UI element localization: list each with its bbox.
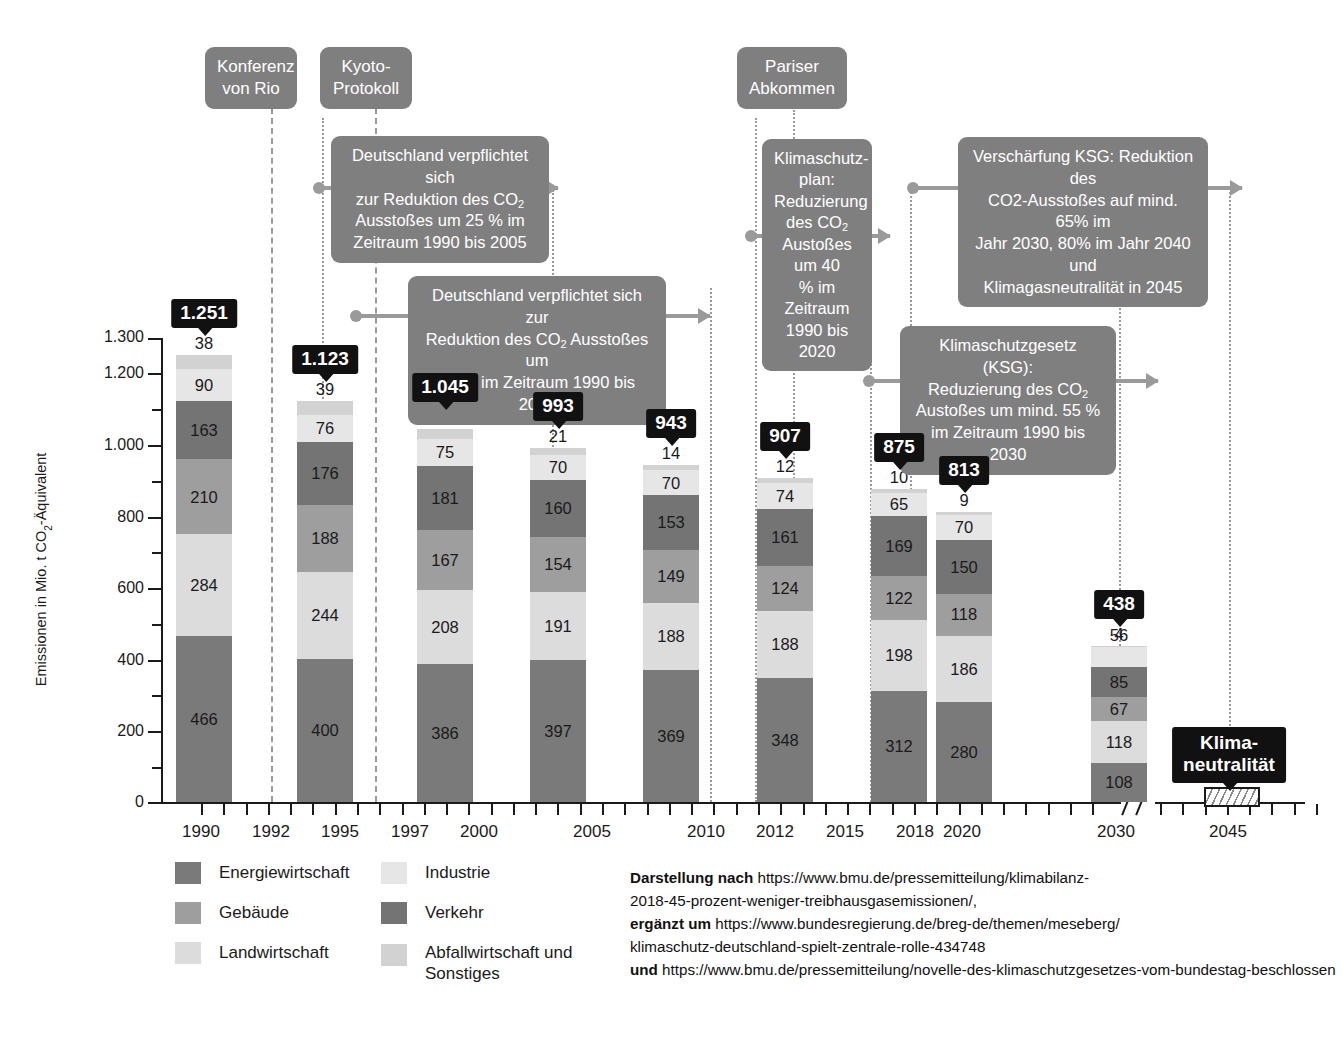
segment-value: 466 — [190, 711, 218, 728]
legend-item-gebaeude[interactable]: Gebäude — [175, 902, 289, 924]
callout-ksp-line3: Reduzierung — [774, 191, 860, 212]
y-tick-400 — [148, 660, 161, 662]
x-tick — [736, 804, 738, 815]
x-tick — [647, 804, 649, 815]
bar-segment-2018-abfallwirtschaft-und-sonstiges: 10 — [871, 489, 927, 493]
bar-segment-1990-geb-ude: 210 — [176, 459, 232, 534]
segment-value: 39 — [297, 381, 353, 398]
callout-verschaerfung-ksg[interactable]: Verschärfung KSG: Reduktion des CO2-Auss… — [958, 137, 1208, 307]
x-tick — [1092, 804, 1094, 815]
x-tick — [468, 804, 470, 815]
bar-segment-2000-geb-ude: 167 — [417, 530, 473, 590]
bar-2020[interactable]: 280186118150709 — [936, 512, 992, 802]
x-tick — [803, 804, 805, 815]
legend-item-industrie[interactable]: Industrie — [381, 862, 490, 884]
callout-kyoto-protokoll[interactable]: Kyoto- Protokoll — [320, 47, 412, 109]
x-label-2045: 2045 — [1209, 822, 1247, 842]
callout-konferenz-von-rio[interactable]: Konferenz von Rio — [205, 47, 297, 109]
segment-value: 75 — [436, 444, 454, 461]
bar-segment-2030-verkehr: 85 — [1091, 667, 1147, 697]
bar-segment-2010-industrie: 70 — [643, 470, 699, 495]
callout-reduktion-25[interactable]: Deutschland verpflichtet sich zur Redukt… — [331, 136, 549, 263]
callout-pariser-abkommen[interactable]: Pariser Abkommen — [737, 47, 847, 109]
legend-label-energiewirtschaft: Energiewirtschaft — [219, 862, 349, 883]
segment-value: 65 — [890, 496, 908, 513]
bar-segment-1990-energiewirtschaft: 466 — [176, 636, 232, 802]
total-badge-2010: 943 — [646, 409, 696, 438]
legend-item-abfallwirtschaft[interactable]: Abfallwirtschaft und Sonstiges — [381, 942, 585, 985]
neutrality-line1: Klima- — [1183, 732, 1275, 754]
bar-segment-2018-geb-ude: 122 — [871, 576, 927, 620]
bar-segment-2030-landwirtschaft: 118 — [1091, 721, 1147, 763]
segment-value: 76 — [316, 420, 334, 437]
legend-swatch-industrie — [381, 862, 407, 884]
bar-2005[interactable]: 3971911541607021 — [530, 448, 586, 802]
segment-value: 208 — [431, 619, 459, 636]
bar-2010[interactable]: 3691881491537014 — [643, 465, 699, 802]
bar-segment-2005-industrie: 70 — [530, 455, 586, 480]
event-line-2012 — [710, 288, 712, 802]
callout-ksg-line2: Reduzierung des CO2 — [912, 379, 1104, 401]
bar-segment-2030-abfallwirtschaft-und-sonstiges: 4 — [1091, 646, 1147, 647]
callout-vks-line2: CO2-Ausstoßes auf mind. 65% im — [970, 190, 1196, 234]
bar-segment-1990-landwirtschaft: 284 — [176, 534, 232, 635]
source-note: Darstellung nach https://www.bmu.de/pres… — [630, 866, 1330, 981]
segment-value: 108 — [1105, 774, 1133, 791]
bar-segment-2020-abfallwirtschaft-und-sonstiges: 9 — [936, 512, 992, 515]
segment-value: 21 — [530, 428, 586, 445]
bar-1995[interactable]: 4002441881767639 — [297, 401, 353, 802]
bar-segment-1995-abfallwirtschaft-und-sonstiges: 39 — [297, 401, 353, 415]
callout-vks-line1: Verschärfung KSG: Reduktion des — [970, 146, 1196, 190]
bar-2000[interactable]: 3862081671817528 — [417, 429, 473, 802]
y-tick-900 — [152, 481, 161, 483]
total-value: 1.123 — [301, 348, 349, 369]
bar-2018[interactable]: 3121981221696510 — [871, 489, 927, 802]
x-tick — [914, 804, 916, 815]
y-tick-1200 — [148, 373, 161, 375]
total-badge-2030: 438 — [1094, 590, 1144, 619]
callout-r21-line2: Reduktion des CO2 Ausstoßes um — [420, 329, 654, 373]
bar-segment-2010-abfallwirtschaft-und-sonstiges: 14 — [643, 465, 699, 470]
x-tick — [223, 804, 225, 815]
bar-segment-2010-energiewirtschaft: 369 — [643, 670, 699, 802]
bar-2015[interactable]: 3481881241617412 — [757, 478, 813, 802]
event-line-2045 — [1229, 188, 1231, 802]
legend-item-energiewirtschaft[interactable]: Energiewirtschaft — [175, 862, 349, 884]
segment-value: 150 — [950, 559, 978, 576]
y-label-1200: 1.200 — [104, 364, 144, 382]
y-tick-300 — [152, 695, 161, 697]
total-badge-2020: 813 — [939, 456, 989, 485]
y-tick-600 — [148, 588, 161, 590]
segment-value: 397 — [544, 723, 572, 740]
callout-ksp-line5: Austoßes um 40 — [774, 234, 860, 277]
bar-1990[interactable]: 4662842101639038 — [176, 355, 232, 802]
legend-item-verkehr[interactable]: Verkehr — [381, 902, 484, 924]
bar-segment-2020-landwirtschaft: 186 — [936, 636, 992, 702]
segment-value: 153 — [657, 514, 685, 531]
legend-swatch-verkehr — [381, 902, 407, 924]
bar-segment-2010-geb-ude: 149 — [643, 550, 699, 603]
x-tick — [959, 804, 961, 815]
callout-klimaschutzplan[interactable]: Klimaschutz- plan: Reduzierung des CO2 A… — [762, 139, 872, 371]
total-value: 1.251 — [180, 302, 228, 323]
x-tick — [691, 804, 693, 815]
x-tick — [312, 804, 314, 815]
x-tick — [1025, 804, 1027, 815]
y-tick-200 — [148, 731, 161, 733]
segment-value: 9 — [936, 492, 992, 509]
segment-value: 244 — [311, 607, 339, 624]
legend-item-landwirtschaft[interactable]: Landwirtschaft — [175, 942, 329, 964]
x-tick — [580, 804, 582, 815]
y-tick-1100 — [152, 409, 161, 411]
x-tick — [424, 804, 426, 815]
total-value: 907 — [769, 425, 801, 446]
y-axis-title-part2: -Äquivalent — [33, 453, 49, 526]
segment-value: 70 — [549, 459, 567, 476]
x-label-2015: 2015 — [826, 822, 864, 842]
callout-ksg[interactable]: Klimaschutzgesetz (KSG): Reduzierung des… — [900, 326, 1116, 475]
segment-value: 14 — [643, 445, 699, 462]
neutrality-line2: neutralität — [1183, 754, 1275, 776]
bar-2030[interactable]: 1081186785564 — [1091, 646, 1147, 802]
callout-ksp-line1: Klimaschutz- — [774, 148, 860, 169]
legend-swatch-abfallwirtschaft — [381, 944, 407, 966]
